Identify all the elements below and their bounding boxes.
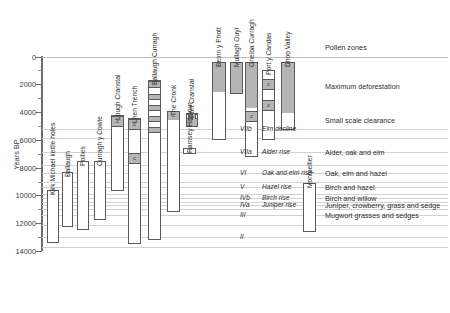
clearance-segment: c	[129, 153, 140, 164]
site-name-label: Kirk Michael kettle holes	[49, 123, 56, 195]
y-tick-minor	[38, 98, 42, 99]
y-tick-label: 8000	[2, 164, 36, 173]
site-name-label: Beinn y Phott	[215, 27, 222, 67]
clearance-segment: c	[263, 79, 274, 90]
clearance-marker-label: c	[246, 114, 257, 119]
y-tick-major	[36, 84, 42, 85]
phase-annotation-label: Maximum deforestation	[325, 82, 400, 91]
site-name-label: Lough Cranstal	[114, 74, 121, 119]
site-range-bar	[148, 80, 161, 240]
pollen-zone-description: Mugwort grasses and sedges	[325, 211, 419, 220]
y-tick-major	[36, 112, 42, 113]
y-tick-minor	[38, 154, 42, 155]
y-tick-minor	[38, 70, 42, 71]
site-name-label: Lhen Trench	[131, 85, 138, 122]
site-name-label: Mullagh Ouyr	[233, 27, 240, 67]
site-range-bar	[62, 172, 73, 228]
pollen-zone-code: VI	[240, 169, 246, 176]
clearance-segment	[149, 94, 160, 100]
site-name-label: The Cronk	[170, 84, 177, 115]
y-tick-major	[36, 168, 42, 169]
site-range-bar: cc	[128, 118, 141, 244]
pollen-zone-gridline	[42, 247, 448, 248]
port-cranstal-mini-mark-2	[191, 113, 193, 120]
y-tick-minor	[38, 126, 42, 127]
y-tick-label: 2000	[2, 80, 36, 89]
pollen-diagram-chart: Years BP 0200040006000800010000120001400…	[0, 0, 450, 313]
pollen-zone-name: Alder rise	[262, 148, 290, 155]
phase-annotation-label: Small scale clearance	[325, 116, 395, 125]
site-name-label: Dhoo Valley	[284, 31, 291, 67]
pollen-zones-header: Pollen zones	[325, 43, 367, 52]
pollen-zone-name: Birch rise	[262, 194, 289, 201]
site-range-bar: cc	[281, 62, 295, 130]
y-tick-label: 12000	[2, 219, 36, 228]
site-name-label: Gneiba Curragh	[248, 19, 255, 67]
site-range-bar: ccc	[245, 62, 258, 156]
pollen-zone-code: VIIa	[240, 148, 252, 155]
site-range-bar	[47, 190, 59, 243]
pollen-zone-name: Oak and elm rise	[262, 169, 312, 176]
pollen-zone-code: IVa	[240, 201, 250, 208]
pollen-zone-code: IVb	[240, 194, 250, 201]
y-tick-major	[36, 195, 42, 196]
pollen-zone-description: Oak, elm and hazel	[325, 169, 387, 178]
pollen-zone-description: Alder, oak and elm	[325, 148, 385, 157]
site-range-bar	[303, 183, 316, 232]
pollen-zone-gridline	[42, 57, 448, 58]
clearance-segment	[213, 63, 225, 92]
y-tick-label: 6000	[2, 136, 36, 145]
port-cranstal-mini-mark-3	[195, 114, 198, 119]
clearance-segment	[149, 127, 160, 133]
y-tick-major	[36, 140, 42, 141]
clearance-segment: c	[263, 100, 274, 111]
pollen-zone-code: II	[240, 233, 244, 240]
clearance-marker-label: c	[263, 82, 274, 87]
clearance-segment	[149, 116, 160, 122]
site-range-bar: c	[111, 115, 124, 191]
clearance-marker-label: c	[112, 119, 123, 124]
pollen-zone-name: Juniper rise	[262, 201, 296, 208]
port-cranstal-mini-mark-1	[186, 114, 189, 119]
clearance-segment: c	[246, 111, 257, 122]
clearance-marker-label: c	[263, 103, 274, 108]
site-range-bar	[77, 161, 89, 230]
clearance-segment	[246, 63, 257, 107]
site-range-bar: c	[167, 111, 180, 212]
site-name-label: Curragh y Cowle	[96, 116, 103, 166]
site-range-bar: cc	[212, 62, 226, 140]
site-range-bar	[94, 161, 106, 221]
y-axis-title: Years BP	[12, 120, 21, 190]
pollen-zone-gridline	[42, 237, 448, 238]
site-name-label: Port y Candas	[265, 33, 272, 75]
y-tick-label: 4000	[2, 108, 36, 117]
clearance-segment	[149, 105, 160, 111]
pollen-zone-description: Juniper, crowberry, grass and sedge	[325, 201, 440, 210]
clearance-marker-label: c	[129, 156, 140, 161]
pollen-zone-description: Birch and hazel	[325, 183, 375, 192]
clearance-segment	[231, 63, 242, 93]
clearance-segment	[282, 63, 294, 113]
site-name-label: Ballaugh	[64, 151, 71, 177]
pollen-zone-code: III	[240, 211, 246, 218]
pollen-zone-code: VIIb	[240, 125, 252, 132]
pollen-zone-name: Elm decline	[262, 125, 296, 132]
pollen-zone-code: V	[240, 183, 244, 190]
y-tick-label: 10000	[2, 191, 36, 200]
site-name-label: Poilies	[79, 146, 86, 166]
pollen-zone-gridline	[42, 225, 448, 226]
site-name-label: Ballaugh Curragh	[151, 33, 158, 85]
y-tick-major	[36, 251, 42, 252]
y-tick-label: 0	[2, 53, 36, 62]
y-tick-label: 14000	[2, 247, 36, 256]
pollen-zone-name: Hazel rise	[262, 183, 291, 190]
